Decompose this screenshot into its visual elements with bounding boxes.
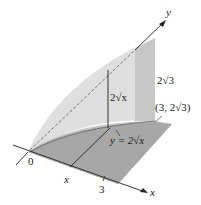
point-label-leader (155, 116, 162, 122)
height-at-x-label: 2√x (110, 91, 128, 103)
three-marker-label: 3 (99, 183, 105, 195)
y-axis (16, 152, 28, 165)
y-axis-label: y (165, 6, 171, 18)
x-axis-label: x (149, 186, 155, 198)
height-at-3-label: 2√3 (157, 74, 175, 86)
curve-label: y = 2√x (109, 134, 144, 146)
back-wall (135, 38, 155, 121)
solid-diagram: y x 0 x 3 2√x 2√3 (3, 2√3) y = 2√x (0, 0, 201, 205)
x-axis-arrow-icon (140, 188, 148, 193)
origin-label: 0 (28, 155, 34, 167)
corner-point-label: (3, 2√3) (155, 101, 191, 114)
x-marker-label: x (63, 173, 69, 185)
